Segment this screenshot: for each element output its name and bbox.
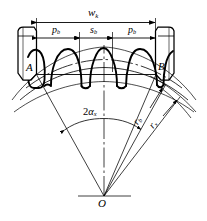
base-tooth-thickness-label: sb [90,25,97,36]
diagram-canvas [0,0,207,221]
span-width-label: wk [88,7,98,19]
radius-arrow-heads [150,88,177,116]
base-pitch-left-label: pb [52,25,60,36]
span-angle-label: 2αx [83,107,97,118]
base-pitch-right-label: pb [128,25,136,36]
contact-point-A-label: A [26,62,33,73]
gear-span-measurement-figure: wk pb sb pb A B 2αx rb rx O [0,0,207,221]
gear-center-O-label: O [98,198,106,209]
gear-tooth-profiles [28,48,173,88]
contact-point-B-label: B [158,61,165,72]
